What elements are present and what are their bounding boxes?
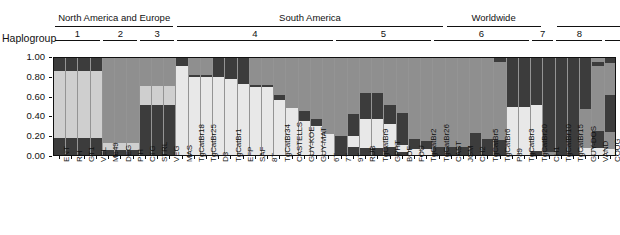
x-tick-label: COUG	[613, 138, 620, 162]
x-tick-mark	[169, 156, 170, 159]
x-tick-mark	[96, 156, 97, 159]
x-tick-label: GPHT	[393, 140, 402, 162]
x-tick-mark	[573, 156, 574, 159]
x-tick-mark	[402, 156, 403, 159]
x-axis-labels: ENTRHGT1VELMe49DEGPIHCTGSTRLVEGMASTgCatB…	[0, 0, 620, 235]
x-tick-mark	[561, 156, 562, 159]
x-tick-mark	[243, 156, 244, 159]
x-tick-label: RUB	[368, 145, 377, 162]
x-tick-mark	[426, 156, 427, 159]
x-tick-label: 6T	[332, 153, 341, 162]
x-tick-label: D3	[221, 152, 230, 162]
x-tick-label: JGM	[466, 145, 475, 162]
x-tick-mark	[145, 156, 146, 159]
x-tick-label: CH1	[552, 146, 561, 162]
x-tick-mark	[157, 156, 158, 159]
x-tick-label: TgCatBr6	[503, 129, 512, 162]
x-tick-mark	[341, 156, 342, 159]
x-tick-label: 8T	[270, 153, 279, 162]
x-tick-label: CASTELLS	[295, 122, 304, 162]
x-tick-label: VEL	[99, 147, 108, 162]
x-tick-label: MAS	[185, 145, 194, 162]
x-tick-mark	[267, 156, 268, 159]
x-tick-label: TgCatBr15	[576, 124, 585, 162]
x-tick-label: RH	[75, 151, 84, 162]
x-tick-mark	[451, 156, 452, 159]
x-tick-label: TgCatBr9	[381, 129, 390, 162]
x-tick-label: DEG	[124, 145, 133, 162]
x-tick-mark	[500, 156, 501, 159]
x-tick-label: TgCatBr10	[564, 124, 573, 162]
x-tick-label: CH2	[478, 146, 487, 162]
x-tick-mark	[304, 156, 305, 159]
x-tick-mark	[536, 156, 537, 159]
x-tick-label: 7T	[344, 153, 353, 162]
x-tick-mark	[512, 156, 513, 159]
x-tick-mark	[279, 156, 280, 159]
x-tick-mark	[328, 156, 329, 159]
x-tick-label: PIH	[136, 149, 145, 162]
x-tick-mark	[84, 156, 85, 159]
x-tick-mark	[524, 156, 525, 159]
x-tick-label: BOF	[405, 146, 414, 162]
x-tick-label: FOU	[417, 145, 426, 162]
x-tick-mark	[255, 156, 256, 159]
x-tick-label: TgCatBr5	[491, 129, 500, 162]
x-tick-mark	[439, 156, 440, 159]
x-tick-label: TgCatBr18	[197, 124, 206, 162]
x-tick-label: GUY-MAT	[319, 127, 328, 162]
x-tick-label: STRL	[160, 142, 169, 162]
x-tick-label: VAND	[601, 141, 610, 162]
x-tick-mark	[475, 156, 476, 159]
x-tick-label: Me49	[111, 142, 120, 162]
x-tick-mark	[292, 156, 293, 159]
x-tick-label: TgCatBr34	[283, 124, 292, 162]
x-tick-label: 9T	[356, 153, 365, 162]
x-tick-mark	[414, 156, 415, 159]
x-tick-mark	[365, 156, 366, 159]
x-tick-mark	[120, 156, 121, 159]
x-tick-mark	[71, 156, 72, 159]
x-tick-mark	[133, 156, 134, 159]
x-tick-label: TgCatBr2	[429, 129, 438, 162]
x-tick-mark	[230, 156, 231, 159]
x-tick-label: TgCatBr26	[442, 124, 451, 162]
x-tick-mark	[206, 156, 207, 159]
x-tick-mark	[610, 156, 611, 159]
x-tick-mark	[598, 156, 599, 159]
x-tick-label: ENT	[62, 146, 71, 162]
x-tick-mark	[59, 156, 60, 159]
x-tick-label: GUY-DOS	[589, 126, 598, 162]
x-tick-mark	[218, 156, 219, 159]
x-tick-label: SAF	[258, 147, 267, 162]
x-tick-mark	[463, 156, 464, 159]
x-tick-label: TgCatBr3	[527, 129, 536, 162]
structure-plot-figure: Haplogroup North America and EuropeSouth…	[0, 0, 620, 235]
x-tick-mark	[316, 156, 317, 159]
x-tick-label: P89	[515, 148, 524, 162]
x-tick-mark	[549, 156, 550, 159]
x-tick-label: VEG	[172, 145, 181, 162]
x-tick-label: EFP	[246, 147, 255, 162]
x-tick-label: GUY-KOE	[307, 127, 316, 162]
x-tick-mark	[377, 156, 378, 159]
x-tick-label: CAST	[454, 141, 463, 162]
x-tick-mark	[390, 156, 391, 159]
x-tick-label: TgCatBr1	[234, 129, 243, 162]
x-tick-label: CTG	[148, 145, 157, 162]
x-tick-mark	[182, 156, 183, 159]
x-tick-mark	[487, 156, 488, 159]
x-tick-mark	[108, 156, 109, 159]
x-tick-label: TgCatBr20	[540, 124, 549, 162]
x-tick-label: GT1	[87, 147, 96, 162]
x-tick-mark	[194, 156, 195, 159]
x-tick-mark	[353, 156, 354, 159]
x-tick-label: TgCatBr25	[209, 124, 218, 162]
x-tick-mark	[585, 156, 586, 159]
